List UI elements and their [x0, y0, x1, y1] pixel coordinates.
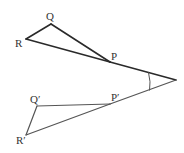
label-r-prime: R′ [16, 134, 26, 146]
ray-p-to-center [110, 62, 176, 80]
label-p: P [111, 50, 117, 62]
segment-rp [26, 39, 110, 62]
segment-qr-prime [26, 106, 37, 135]
triangle-pqr [26, 24, 110, 62]
segment-rp-prime [26, 104, 110, 135]
segment-rq [26, 24, 51, 39]
angle-arc [149, 73, 151, 91]
label-q: Q [46, 10, 54, 22]
ray-pprime-to-center [110, 80, 176, 104]
label-q-prime: Q′ [30, 93, 40, 105]
segment-qp-prime [37, 104, 110, 106]
triangle-pqr-prime [26, 104, 110, 135]
segment-qp [51, 24, 110, 62]
rotation-diagram: Q R P Q′ P′ R′ [0, 0, 184, 153]
label-p-prime: P′ [111, 91, 120, 103]
label-r: R [15, 37, 23, 49]
